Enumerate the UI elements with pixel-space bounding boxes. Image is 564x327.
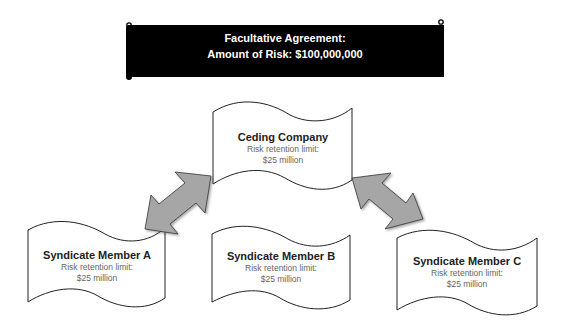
node-title: Syndicate Member B [212,249,350,263]
banner-title: Facultative Agreement: Amount of Risk: $… [120,30,450,62]
node-title: Ceding Company [213,130,353,144]
node-subtitle: Risk retention limit: [28,262,166,273]
node-value: $25 million [213,155,353,166]
member-b-label: Syndicate Member B Risk retention limit:… [212,249,350,285]
node-subtitle: Risk retention limit: [397,268,537,279]
node-subtitle: Risk retention limit: [213,144,353,155]
banner-line-1: Facultative Agreement: [120,30,450,46]
banner-curl-right [439,20,443,24]
node-title: Syndicate Member A [28,248,166,262]
node-subtitle: Risk retention limit: [212,263,350,274]
node-value: $25 million [28,273,166,284]
node-value: $25 million [397,279,537,290]
banner-line-2: Amount of Risk: $100,000,000 [120,46,450,62]
node-title: Syndicate Member C [397,254,537,268]
member-c-label: Syndicate Member C Risk retention limit:… [397,254,537,290]
double-arrow-icon [352,173,423,229]
member-a-label: Syndicate Member A Risk retention limit:… [28,248,166,284]
double-arrow-icon [145,172,211,234]
node-value: $25 million [212,274,350,285]
ceding-company-label: Ceding Company Risk retention limit: $25… [213,130,353,166]
